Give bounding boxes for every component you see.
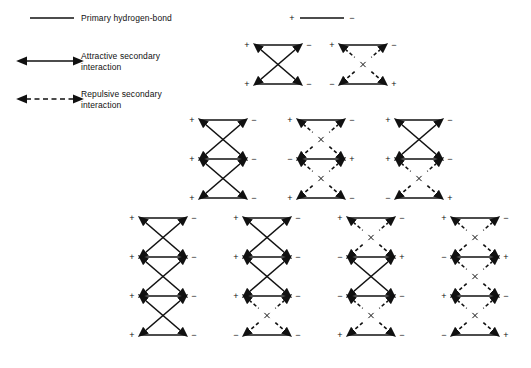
hydrogen-bond-unit-row: +− [129,252,196,262]
charge-sign-right: − [447,154,452,164]
secondary-interaction-repulsive [303,124,339,155]
charge-sign-left: + [233,291,238,301]
secondary-interaction-repulsive [353,300,389,331]
secondary-interaction-attractive [249,261,285,292]
secondary-interaction-repulsive [345,49,381,80]
hydrogen-bond-unit-row: −+ [441,330,508,340]
charge-sign-left: + [129,291,134,301]
charge-sign-left: + [189,193,194,203]
hydrogen-bond-unit-row: +− [244,79,311,89]
secondary-interaction-repulsive [457,261,493,292]
hydrogen-bond-unit-row: −+ [287,154,354,164]
charge-sign-right: − [349,115,354,125]
charge-sign-left: − [385,193,390,203]
structures-layer: +−+−+−−++−+−+−+−−++−+−+−−++−+−+−+−+−+−+−… [129,40,508,340]
hydrogen-bond-unit-row: +− [233,252,300,262]
charge-sign-left: + [244,40,249,50]
secondary-interaction-attractive [205,124,241,155]
charge-sign-left: + [385,154,390,164]
charge-sign-left: + [129,252,134,262]
secondary-interaction-attractive [145,261,181,292]
hydrogen-bond-unit-row: −− [233,330,300,340]
hydrogen-bond-unit-row: +− [385,154,452,164]
charge-sign-left: − [233,330,238,340]
charge-sign-right: − [191,252,196,262]
charge-sign-left: − [441,330,446,340]
hydrogen-bond-unit-row: +− [337,330,404,340]
structure-3-unit: +−+−−+ [385,115,452,203]
charge-sign-right: − [399,291,404,301]
charge-sign-left: + [233,252,238,262]
hydrogen-bond-unit-row: +− [441,213,508,223]
charge-sign-left: − [441,252,446,262]
hydrogen-bond-unit-row: +− [329,40,396,50]
charge-sign-right: − [503,213,508,223]
secondary-interaction-attractive [249,222,285,253]
charge-sign-left: − [337,291,342,301]
charge-sign-right: + [349,154,354,164]
charge-sign-left: − [337,252,342,262]
structure-2-unit: +−−+ [329,40,396,89]
charge-sign-right: − [399,213,404,223]
charge-sign-right: − [295,213,300,223]
unit-key-left-sign: + [289,13,294,23]
unit-key-right-sign: − [349,13,354,23]
charge-sign-right: − [391,40,396,50]
hydrogen-bond-unit-row: +− [129,291,196,301]
charge-sign-left: + [244,79,249,89]
charge-sign-right: + [391,79,396,89]
secondary-interaction-repulsive [303,163,339,194]
charge-sign-right: − [295,291,300,301]
hydrogen-bond-unit-row: +− [129,330,196,340]
secondary-interaction-repulsive [401,163,437,194]
charge-sign-right: + [503,330,508,340]
structure-4-unit: +−+−+−−− [233,213,300,340]
hydrogen-bond-unit-row: −+ [385,193,452,203]
legend-glyph-unit-key: + − [289,13,354,23]
structure-4-unit: +−−++−−+ [441,213,508,340]
hydrogen-bond-unit-row: +− [233,291,300,301]
structure-3-unit: +−−++− [287,115,354,203]
charge-sign-left: + [129,213,134,223]
charge-sign-right: − [251,193,256,203]
charge-sign-right: + [447,193,452,203]
hydrogen-bond-unit-row: +− [287,115,354,125]
charge-sign-right: − [295,330,300,340]
hydrogen-bond-unit-row: −+ [337,252,404,262]
charge-sign-left: − [329,79,334,89]
hydrogen-bond-unit-row: +− [441,291,508,301]
hydrogen-bond-unit-row: −+ [329,79,396,89]
hydrogen-bond-unit-row: +− [189,154,256,164]
hydrogen-bond-unit-row: +− [337,213,404,223]
charge-sign-left: + [287,193,292,203]
charge-sign-right: − [447,115,452,125]
secondary-interaction-repulsive [353,222,389,253]
secondary-interaction-attractive [353,261,389,292]
secondary-interaction-repulsive [249,300,285,331]
hydrogen-bond-unit-row: +− [233,213,300,223]
charge-sign-left: − [287,154,292,164]
hydrogen-bond-unit-row: +− [189,115,256,125]
charge-sign-left: + [385,115,390,125]
hydrogen-bond-unit-row: +− [129,213,196,223]
charge-sign-right: − [306,79,311,89]
structure-4-unit: +−+−+−+− [129,213,196,340]
charge-sign-left: + [129,330,134,340]
charge-sign-right: − [399,330,404,340]
charge-sign-left: + [441,291,446,301]
charge-sign-right: − [191,330,196,340]
charge-sign-right: − [251,154,256,164]
diagram-canvas: + − +−+−+−−++−+−+−+−−++−+−+−−++−+−+−+−+−… [0,0,531,368]
charge-sign-right: − [251,115,256,125]
charge-sign-right: − [295,252,300,262]
secondary-interaction-attractive [145,300,181,331]
hydrogen-bond-unit-row: −+ [441,252,508,262]
charge-sign-left: + [233,213,238,223]
charge-sign-left: + [337,213,342,223]
secondary-interaction-attractive [145,222,181,253]
charge-sign-right: − [349,193,354,203]
structure-4-unit: +−−+−−+− [337,213,404,340]
charge-sign-left: + [189,115,194,125]
charge-sign-left: + [441,213,446,223]
secondary-interaction-attractive [260,49,296,80]
